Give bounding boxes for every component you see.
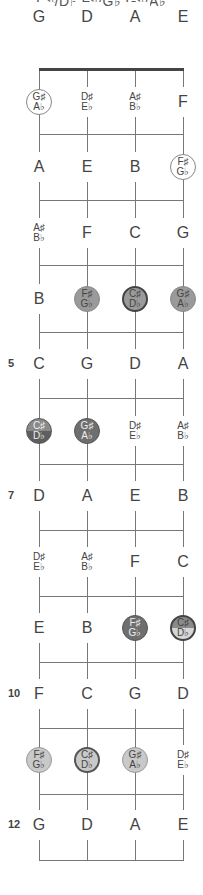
highlighted-note: F♯G♭ [122, 615, 148, 641]
note-name: D [81, 9, 93, 25]
note-label: G [72, 349, 102, 379]
note-name: F [34, 686, 44, 702]
note-name: G [129, 686, 141, 702]
highlighted-note: C♯D♭ [170, 615, 196, 641]
note-name: G [33, 817, 45, 833]
nut [39, 68, 184, 71]
note-name: G [177, 225, 189, 241]
highlighted-note: C♯D♭ [74, 747, 100, 773]
note-label: A [168, 349, 198, 379]
note-label: D [168, 679, 198, 709]
note-label: D [72, 2, 102, 32]
note-name: C [81, 686, 93, 702]
note-enharmonic: A♭ [177, 299, 189, 309]
note-name: A [130, 817, 141, 833]
note-enharmonic: A♭ [81, 431, 93, 441]
note-enharmonic: G♭ [33, 760, 46, 770]
note-name: F [130, 554, 140, 570]
note-name: B [178, 488, 189, 504]
note-enharmonic: G♭ [129, 628, 142, 638]
note-name: B [130, 159, 141, 175]
note-label: A♯B♭ [168, 416, 198, 446]
note-enharmonic: D♭ [33, 431, 45, 441]
note-label: G [24, 2, 54, 32]
note-label: E [24, 613, 54, 643]
note-label: F [24, 679, 54, 709]
note-name: F [178, 94, 188, 110]
note-enharmonic: D♭ [81, 760, 93, 770]
note-label: C [120, 218, 150, 248]
note-enharmonic: B♭ [177, 431, 189, 441]
note-enharmonic: D♭ [177, 628, 189, 638]
highlighted-note: G♯A♭ [74, 418, 100, 444]
fretboard-diagram: 571012GDAEG♯A♭D♯E♭A♯B♭FAEBF♯G♭A♯B♭FCGBF♯… [0, 0, 203, 895]
note-label: A [120, 810, 150, 840]
highlighted-note: F♯G♭ [74, 286, 100, 312]
note-label: B [120, 152, 150, 182]
note-enharmonic: E♭ [177, 760, 189, 770]
note-label: G [120, 679, 150, 709]
fret-line-10 [39, 728, 184, 729]
note-name: D [129, 356, 141, 372]
note-label: A♯B♭ [24, 218, 54, 248]
fret-line-4 [39, 332, 184, 333]
note-name: E [178, 817, 189, 833]
highlighted-note: G♯A♭ [170, 286, 196, 312]
note-enharmonic: A♭ [129, 760, 141, 770]
highlighted-note: F♯G♭ [26, 747, 52, 773]
note-label: D♯E♭ [120, 416, 150, 446]
fret-line-7 [39, 530, 184, 531]
note-label: C [168, 547, 198, 577]
note-label: G [168, 218, 198, 248]
highlighted-note: G♯A♭ [26, 89, 52, 115]
note-name: E [130, 488, 141, 504]
fret-line-5 [39, 398, 184, 399]
note-enharmonic: D♭ [129, 299, 141, 309]
note-name: D [33, 488, 45, 504]
note-enharmonic: E♭ [129, 431, 141, 441]
note-name: F [82, 225, 92, 241]
note-enharmonic: G♭ [177, 167, 190, 177]
fret-line-9 [39, 662, 184, 663]
fret-line-1 [39, 134, 184, 135]
note-label: E [120, 481, 150, 511]
note-name: D [81, 817, 93, 833]
note-name: B [34, 291, 45, 307]
note-name: A [130, 9, 141, 25]
note-enharmonic: E♭ [81, 102, 93, 112]
fret-line-2 [39, 200, 184, 201]
fret-line-11 [39, 794, 184, 795]
highlighted-note: G♯A♭ [122, 747, 148, 773]
note-enharmonic: B♭ [129, 102, 141, 112]
note-enharmonic: G♭ [81, 299, 94, 309]
note-label: E [168, 810, 198, 840]
note-label: E [72, 152, 102, 182]
note-label: B [72, 613, 102, 643]
note-name: A [34, 159, 45, 175]
note-name: E [178, 9, 189, 25]
note-name: C [129, 225, 141, 241]
note-label: A [72, 481, 102, 511]
note-label: D [72, 810, 102, 840]
note-name: G [33, 9, 45, 25]
fret-line-3 [39, 265, 184, 266]
note-name: B [82, 620, 93, 636]
note-label: A♯B♭ [72, 547, 102, 577]
fret-line-8 [39, 596, 184, 597]
note-label: G [24, 810, 54, 840]
note-name: E [34, 620, 45, 636]
note-label: F [72, 218, 102, 248]
note-label: D♯E♭ [72, 87, 102, 117]
note-label: A♯B♭ [120, 87, 150, 117]
note-enharmonic: B♭ [81, 562, 93, 572]
note-label: E [168, 2, 198, 32]
note-enharmonic: A♭ [33, 102, 45, 112]
note-label: C [72, 679, 102, 709]
note-enharmonic: B♭ [33, 233, 45, 243]
note-label: F [168, 87, 198, 117]
highlighted-note: F♯G♭ [170, 154, 196, 180]
note-label: F [120, 547, 150, 577]
note-name: A [178, 356, 189, 372]
note-name: A [82, 488, 93, 504]
note-label: B [24, 284, 54, 314]
